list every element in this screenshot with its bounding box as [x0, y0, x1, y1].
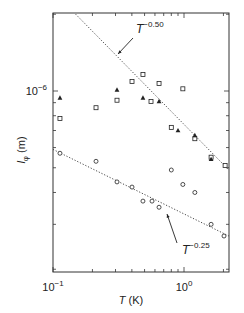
- triangle-marker: [115, 87, 120, 91]
- circle-marker: [115, 180, 119, 184]
- square-marker: [94, 106, 98, 110]
- circle-marker: [209, 222, 213, 226]
- square-marker: [141, 73, 145, 77]
- circle-marker: [169, 168, 173, 172]
- square-marker: [130, 79, 134, 83]
- circle-marker: [181, 182, 185, 186]
- square-marker: [115, 98, 119, 102]
- square-marker: [58, 117, 62, 121]
- circle-marker: [222, 234, 226, 238]
- axis-ticks: [53, 13, 229, 272]
- triangle-marker: [176, 128, 181, 132]
- circle-marker: [150, 199, 154, 203]
- square-marker: [169, 125, 173, 129]
- circle-marker: [58, 151, 62, 155]
- fit-line-1: [53, 149, 229, 236]
- data-points: [58, 73, 228, 238]
- circle-marker: [94, 159, 98, 163]
- plot-frame: [53, 13, 229, 272]
- triangle-marker: [141, 95, 146, 99]
- plot-border: [53, 13, 229, 272]
- x-axis-label: T (K): [119, 294, 143, 306]
- triangle-marker: [192, 133, 197, 137]
- square-marker: [181, 87, 185, 91]
- square-marker: [157, 82, 161, 86]
- square-marker: [193, 137, 197, 141]
- circle-marker: [157, 205, 161, 209]
- x-tick-label-1: 100: [176, 279, 193, 293]
- square-marker: [223, 164, 227, 168]
- square-marker: [149, 99, 153, 103]
- y-tick-label-0: 10−6: [26, 83, 48, 97]
- circle-marker: [130, 185, 134, 189]
- annotations: [118, 38, 177, 243]
- y-axis-label: lφ (m): [15, 136, 30, 163]
- circle-marker: [193, 190, 197, 194]
- arrow-t-025: [167, 214, 177, 243]
- circle-marker: [141, 199, 145, 203]
- fit-line-0: [76, 14, 229, 170]
- arrow-t-025-head: [167, 214, 170, 218]
- fit-lines: [53, 14, 229, 236]
- triangle-marker: [157, 99, 162, 103]
- chart: 10−1 100 10−6 T (K) lφ (m) T−0.50 T−0.25: [0, 0, 244, 313]
- triangle-marker: [58, 95, 63, 99]
- annotation-t-050: T−0.50: [136, 20, 164, 36]
- x-tick-label-0: 10−1: [42, 279, 64, 293]
- annotation-t-025: T−0.25: [182, 241, 210, 257]
